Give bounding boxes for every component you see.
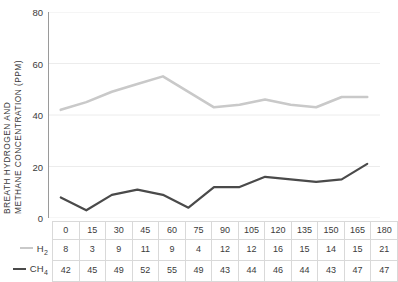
- ch4-label: CH4: [30, 263, 48, 274]
- data-table-wrapper: 0153045607590105120135150165180 H2 83911…: [0, 221, 398, 282]
- ch4-value-cell: 44: [238, 260, 265, 281]
- h2-value-cell: 21: [371, 240, 398, 261]
- ch4-subscript: 4: [44, 269, 48, 276]
- chart-canvas: [48, 12, 380, 218]
- h2-value-cell: 8: [53, 240, 80, 261]
- h2-value-cell: 12: [212, 240, 239, 261]
- h2-value-cell: 4: [185, 240, 212, 261]
- x-value-cell: 180: [371, 222, 398, 240]
- ch4-value-cell: 49: [185, 260, 212, 281]
- ch4-value-cell: 45: [79, 260, 106, 281]
- ch4-value-cell: 47: [344, 260, 371, 281]
- x-value-cell: 45: [132, 222, 159, 240]
- ch4-value-cell: 46: [265, 260, 292, 281]
- table-row-ch4: CH4 42454952554943444644434747: [0, 260, 398, 281]
- x-value-cell: 90: [212, 222, 239, 240]
- h2-label: H2: [37, 243, 48, 254]
- y-axis-title: BREATH HYDROGEN AND METHANE CONCENTRATIO…: [0, 12, 30, 218]
- y-axis-tick-label: 20: [32, 161, 43, 172]
- legend-ch4: CH4: [0, 260, 53, 281]
- y-axis-tick-label: 40: [32, 110, 43, 121]
- ch4-value-cell: 43: [318, 260, 345, 281]
- table-row-x-values: 0153045607590105120135150165180: [0, 222, 398, 240]
- ch4-value-cell: 52: [132, 260, 159, 281]
- h2-value-cell: 12: [238, 240, 265, 261]
- ch4-value-cell: 43: [212, 260, 239, 281]
- h2-value-cell: 9: [159, 240, 186, 261]
- h2-value-cell: 11: [132, 240, 159, 261]
- x-value-cell: 120: [265, 222, 292, 240]
- x-value-cell: 135: [291, 222, 318, 240]
- legend-h2: H2: [0, 240, 53, 261]
- y-axis-title-line-2: METHANE CONCENTRATION (PPM): [13, 60, 23, 214]
- ch4-value-cell: 49: [106, 260, 133, 281]
- y-axis-tick-label: 60: [32, 58, 43, 69]
- y-axis-title-line-1: BREATH HYDROGEN AND: [2, 102, 12, 214]
- h2-value-cell: 15: [344, 240, 371, 261]
- ch4-value-cell: 42: [53, 260, 80, 281]
- h2-value-cell: 15: [291, 240, 318, 261]
- series-line-ch4: [61, 76, 367, 109]
- h2-value-cell: 16: [265, 240, 292, 261]
- h2-value-cell: 9: [106, 240, 133, 261]
- data-table: 0153045607590105120135150165180 H2 83911…: [0, 221, 398, 282]
- h2-value-cell: 3: [79, 240, 106, 261]
- x-value-cell: 105: [238, 222, 265, 240]
- table-row-h2: H2 839119412121615141521: [0, 240, 398, 261]
- ch4-line-swatch-icon: [13, 268, 26, 270]
- x-value-cell: 75: [185, 222, 212, 240]
- x-value-cell: 15: [79, 222, 106, 240]
- ch4-value-cell: 55: [159, 260, 186, 281]
- h2-subscript: 2: [44, 248, 48, 255]
- x-value-cell: 30: [106, 222, 133, 240]
- x-value-cell: 150: [318, 222, 345, 240]
- ch4-value-cell: 47: [371, 260, 398, 281]
- x-value-cell: 60: [159, 222, 186, 240]
- y-axis-tick-label: 80: [32, 7, 43, 18]
- x-value-cell: 165: [344, 222, 371, 240]
- h2-value-cell: 14: [318, 240, 345, 261]
- x-value-cell: 0: [53, 222, 80, 240]
- plot-area: 020406080: [48, 12, 380, 218]
- series-line-h2: [61, 164, 367, 210]
- h2-line-swatch-icon: [20, 247, 33, 249]
- ch4-value-cell: 44: [291, 260, 318, 281]
- x-row-header: [0, 222, 53, 240]
